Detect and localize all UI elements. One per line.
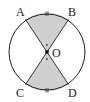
label-a: A [16,5,25,19]
label-o: O [52,46,61,60]
sector-cod [26,52,69,91]
label-b: B [68,5,76,19]
angle-aob-mark-icon [46,44,48,46]
sector-aob [26,13,69,52]
circle-diagram: A B C D O [0,0,90,102]
angle-cod-mark-icon [46,58,48,60]
label-c: C [16,86,24,100]
center-point [45,50,48,53]
label-d: D [68,86,77,100]
